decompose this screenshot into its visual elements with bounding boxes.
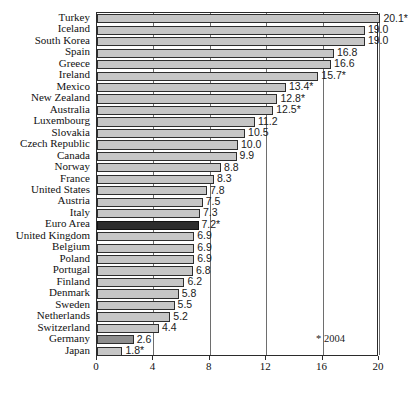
bar-row: 15.7* <box>97 70 377 82</box>
bar-row: 6.9 <box>97 254 377 266</box>
bar-spain <box>97 49 334 58</box>
bar-row: 5.8 <box>97 288 377 300</box>
gridline <box>379 13 380 355</box>
bar-ireland <box>97 72 318 81</box>
bar-italy <box>97 209 200 218</box>
bar-row: 12.5* <box>97 105 377 117</box>
category-label-japan: Japan <box>65 345 90 357</box>
bar-united-states <box>97 186 207 195</box>
bar-canada <box>97 152 237 161</box>
axis-tick-label: 4 <box>150 360 156 373</box>
bar-row: 6.9 <box>97 242 377 254</box>
plot-area: 20.1*19.019.016.816.615.7*13.4*12.8*12.5… <box>96 12 378 356</box>
bar-austria <box>97 198 203 207</box>
category-axis-labels: TurkeyIcelandSouth KoreaSpainGreeceIrela… <box>0 12 93 356</box>
bar-poland <box>97 255 194 264</box>
bar-mexico <box>97 83 286 92</box>
bar-value-label: 15.7* <box>321 70 346 82</box>
bar-australia <box>97 106 273 115</box>
bar-row: 10.5 <box>97 128 377 140</box>
bar-row: 7.5 <box>97 196 377 208</box>
bar-row: 12.8* <box>97 93 377 105</box>
bar-row: 6.9 <box>97 231 377 243</box>
bar-rows: 20.1*19.019.016.816.615.7*13.4*12.8*12.5… <box>97 13 377 355</box>
bar-row: 19.0 <box>97 36 377 48</box>
bar-row: 6.2 <box>97 277 377 289</box>
bar-row: 8.3 <box>97 174 377 186</box>
bar-united-kingdom <box>97 232 194 241</box>
bar-row: 8.8 <box>97 162 377 174</box>
bar-switzerland <box>97 324 159 333</box>
bar-row: 5.2 <box>97 311 377 323</box>
bar-greece <box>97 60 331 69</box>
bar-denmark <box>97 289 179 298</box>
axis-tick-label: 16 <box>316 360 327 373</box>
bar-row: 7.3 <box>97 208 377 220</box>
bar-portugal <box>97 266 193 275</box>
bar-finland <box>97 278 184 287</box>
bar-row: 7.8 <box>97 185 377 197</box>
bar-turkey <box>97 14 380 23</box>
axis-tick-label: 20 <box>373 360 384 373</box>
axis-tick-label: 8 <box>206 360 212 373</box>
axis-tick-label: 12 <box>260 360 271 373</box>
bar-netherlands <box>97 312 170 321</box>
bar-norway <box>97 163 221 172</box>
bar-row: 6.8 <box>97 265 377 277</box>
bar-row: 11.2 <box>97 116 377 128</box>
bar-iceland <box>97 26 365 35</box>
footnote-annotation: * 2004 <box>316 333 345 344</box>
bar-row: 20.1* <box>97 13 377 25</box>
bar-slovakia <box>97 129 245 138</box>
bar-luxembourg <box>97 117 255 126</box>
bar-value-label: 19.0 <box>368 35 388 47</box>
bar-value-label: 12.5* <box>276 104 301 116</box>
bar-row: 7.2* <box>97 219 377 231</box>
value-axis: 048121620 <box>96 356 378 376</box>
bar-south-korea <box>97 37 365 46</box>
bar-value-label: 9.9 <box>240 150 255 162</box>
bar-czech-republic <box>97 140 238 149</box>
bar-row: 5.5 <box>97 300 377 312</box>
bar-row: 10.0 <box>97 139 377 151</box>
bar-new-zealand <box>97 94 277 103</box>
bar-sweden <box>97 301 175 310</box>
bar-belgium <box>97 244 194 253</box>
bar-value-label: 4.4 <box>162 322 177 334</box>
bar-row: 19.0 <box>97 24 377 36</box>
bar-france <box>97 175 214 184</box>
bar-euro-area <box>97 221 199 230</box>
bar-japan <box>97 347 122 356</box>
bar-row: 13.4* <box>97 82 377 94</box>
axis-tick-label: 0 <box>93 360 99 373</box>
